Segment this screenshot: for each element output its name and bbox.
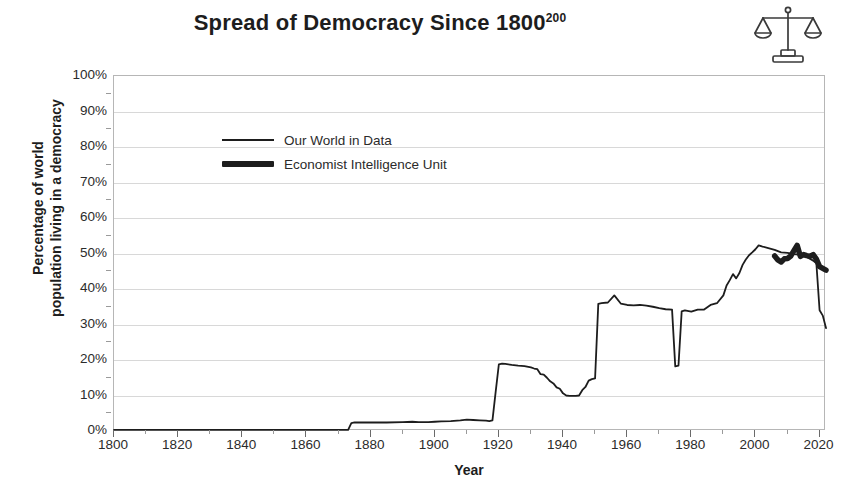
legend-line-swatch-icon [222,133,274,147]
x-tick-major [113,430,114,437]
x-tick-label: 1960 [596,437,656,452]
title-main-text: Spread of Democracy Since 1800 [194,10,546,35]
series-line [114,245,826,430]
y-tick-label: 70% [45,174,107,189]
x-tick-label: 1800 [83,437,143,452]
x-tick-label: 1860 [275,437,335,452]
x-tick-label: 1980 [660,437,720,452]
y-tick-label: 80% [45,138,107,153]
y-tick-label: 60% [45,209,107,224]
x-tick-label: 1840 [211,437,271,452]
legend-item-label: Economist Intelligence Unit [284,157,447,172]
x-tick-minor [594,430,595,434]
x-tick-major [241,430,242,437]
y-tick-minor [106,199,111,200]
y-tick-minor [106,164,111,165]
x-tick-major [819,430,820,437]
title-superscript: 200 [546,11,567,25]
y-tick-minor [106,341,111,342]
y-tick-minor [106,128,111,129]
series-lines [114,76,826,431]
y-tick-minor [106,377,111,378]
y-tick-label: 20% [45,351,107,366]
x-tick-major [177,430,178,437]
y-tick-label: 100% [45,67,107,82]
x-tick-major [305,430,306,437]
y-tick-label: 30% [45,316,107,331]
x-tick-major [562,430,563,437]
plot-area [113,75,825,430]
x-tick-major [754,430,755,437]
legend-item[interactable]: Our World in Data [222,128,447,152]
legend-line-swatch-icon [222,157,274,171]
y-tick-minor [106,93,111,94]
y-tick-minor [106,270,111,271]
y-tick-minor [106,235,111,236]
y-tick-label: 40% [45,280,107,295]
legend-item[interactable]: Economist Intelligence Unit [222,152,447,176]
x-tick-major [498,430,499,437]
x-tick-major [626,430,627,437]
series-line [775,245,826,270]
legend-item-label: Our World in Data [284,133,392,148]
x-tick-label: 1880 [340,437,400,452]
x-tick-minor [658,430,659,434]
x-tick-minor [338,430,339,434]
x-tick-major [690,430,691,437]
y-tick-minor [106,306,111,307]
x-axis-title: Year [113,462,825,478]
x-tick-label: 1920 [468,437,528,452]
x-tick-minor [145,430,146,434]
x-tick-label: 1820 [147,437,207,452]
y-tick-minor [106,412,111,413]
x-tick-label: 2020 [789,437,842,452]
y-tick-label: 10% [45,387,107,402]
x-tick-major [370,430,371,437]
x-tick-major [434,430,435,437]
x-tick-minor [402,430,403,434]
chart-legend: Our World in DataEconomist Intelligence … [222,128,447,176]
y-tick-label: 0% [45,422,107,437]
y-tick-label: 50% [45,245,107,260]
x-tick-label: 1940 [532,437,592,452]
x-tick-label: 1900 [404,437,464,452]
balance-scales-icon [752,2,824,66]
x-tick-label: 2000 [724,437,784,452]
y-tick-label: 90% [45,103,107,118]
x-tick-minor [530,430,531,434]
x-tick-minor [209,430,210,434]
x-tick-minor [787,430,788,434]
x-tick-minor [722,430,723,434]
page-title: Spread of Democracy Since 1800200 [0,10,760,36]
x-tick-minor [273,430,274,434]
x-tick-minor [466,430,467,434]
